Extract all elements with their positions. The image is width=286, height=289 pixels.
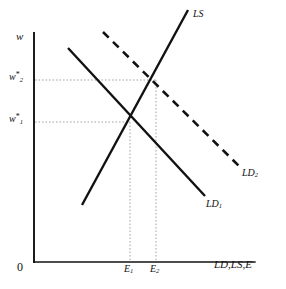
curve-label-ld1-sub: 1 <box>219 202 222 209</box>
curve-label-ld2-main: LD <box>242 167 255 178</box>
y-tick-w1-sub: 1 <box>20 118 23 125</box>
labor-market-diagram: w 0 LD,LS,E LS LD1 LD2 w*2 w*1 E1 E2 <box>0 0 286 289</box>
curve-ld2 <box>103 32 240 167</box>
y-tick-w2-main: w <box>9 71 16 82</box>
curve-label-ld2-sub: 2 <box>255 171 258 178</box>
y-tick-w2-sub: 2 <box>20 76 23 83</box>
curve-label-ld2: LD2 <box>242 168 258 179</box>
guide-lines <box>35 80 156 261</box>
x-tick-e2-sub: 2 <box>156 267 159 274</box>
diagram-canvas <box>0 0 286 289</box>
curves <box>68 10 240 205</box>
y-tick-w1-main: w <box>9 113 16 124</box>
origin-label: 0 <box>17 261 23 273</box>
y-tick-label-w1: w*1 <box>9 113 23 125</box>
x-axis-label: LD,LS,E <box>214 259 252 270</box>
y-axis-label: w <box>16 31 23 42</box>
x-tick-e1-sub: 1 <box>130 267 133 274</box>
curve-label-ls: LS <box>193 9 204 19</box>
x-tick-label-e1: E1 <box>124 264 133 275</box>
curve-label-ld1: LD1 <box>206 199 222 210</box>
curve-label-ld1-main: LD <box>206 198 219 209</box>
x-tick-label-e2: E2 <box>150 264 159 275</box>
axes <box>34 33 255 262</box>
curve-ls <box>82 10 188 205</box>
y-tick-label-w2: w*2 <box>9 71 23 83</box>
